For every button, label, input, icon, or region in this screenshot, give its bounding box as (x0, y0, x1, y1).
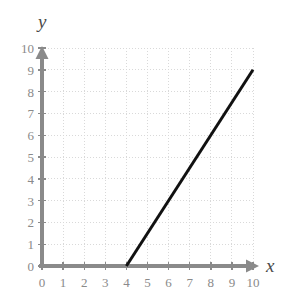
x-tick-label: 9 (229, 276, 236, 289)
y-tick-label: 4 (28, 172, 35, 185)
y-axis-label: y (38, 12, 46, 31)
y-tick-label: 5 (28, 151, 35, 164)
y-tick-label: 3 (28, 194, 35, 207)
x-tick-label: 4 (123, 276, 130, 289)
plot-area (0, 0, 294, 305)
line-chart: 012345678910 012345678910 y x (0, 0, 294, 305)
x-tick-label: 5 (144, 276, 151, 289)
x-tick-label: 1 (60, 276, 67, 289)
x-tick-label: 0 (39, 276, 46, 289)
x-tick-label: 6 (165, 276, 172, 289)
y-tick-label: 8 (28, 85, 35, 98)
x-tick-label: 7 (186, 276, 193, 289)
x-tick-label: 3 (102, 276, 109, 289)
y-tick-label: 2 (28, 216, 35, 229)
y-tick-label: 1 (28, 238, 35, 251)
y-tick-label: 0 (28, 260, 35, 273)
y-tick-label: 6 (28, 129, 35, 142)
x-tick-label: 8 (208, 276, 215, 289)
chart-background (0, 0, 294, 305)
x-axis-label: x (266, 256, 274, 275)
y-tick-label: 7 (28, 107, 35, 120)
y-tick-label: 9 (28, 63, 35, 76)
y-tick-label: 10 (21, 42, 34, 55)
x-tick-label: 10 (247, 276, 260, 289)
x-tick-label: 2 (81, 276, 88, 289)
